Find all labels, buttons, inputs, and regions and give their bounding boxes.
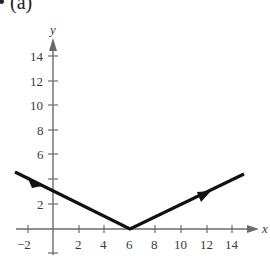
y-tick-label: 10 xyxy=(30,99,43,112)
y-tick-label: 12 xyxy=(30,75,43,88)
x-tick-label: 2 xyxy=(75,238,82,251)
axes xyxy=(16,46,252,255)
x-tick-label: 6 xyxy=(126,238,133,251)
y-axis-label: y xyxy=(50,23,56,36)
y-tick-label: 2 xyxy=(37,198,44,211)
chart-panel: • (a) xyxy=(0,0,270,270)
right-direction-arrow-icon xyxy=(197,191,211,202)
function-line xyxy=(15,172,244,229)
x-tick-label: 10 xyxy=(174,238,187,251)
x-axis-label: x xyxy=(262,222,268,235)
x-tick-label: −2 xyxy=(17,238,31,251)
x-tick-label: 14 xyxy=(225,238,238,251)
x-axis-arrow-icon xyxy=(247,225,259,233)
y-tick-label: 14 xyxy=(30,50,43,63)
left-direction-arrow-icon xyxy=(27,176,42,188)
x-tick-label: 8 xyxy=(151,238,158,251)
y-axis-arrow-icon xyxy=(49,38,57,51)
x-tick-label: 12 xyxy=(200,238,213,251)
x-tick-label: 4 xyxy=(100,238,107,251)
y-tick-label: 6 xyxy=(37,148,44,161)
y-tick-label: 8 xyxy=(37,124,44,137)
